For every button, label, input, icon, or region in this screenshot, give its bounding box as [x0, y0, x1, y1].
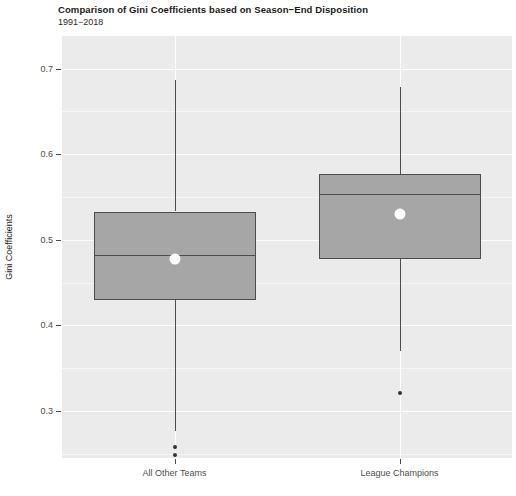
median-line — [319, 194, 481, 195]
mean-marker — [169, 253, 180, 264]
y-axis-tick-label: 0.6 — [40, 149, 53, 159]
whisker-lower — [175, 300, 176, 431]
gridline-minor — [62, 368, 512, 369]
y-axis-tick-mark — [56, 325, 61, 326]
mean-marker — [394, 209, 405, 220]
gridline-major — [62, 69, 512, 70]
plot-panel — [62, 36, 512, 458]
gridline-major — [62, 411, 512, 412]
whisker-upper — [175, 80, 176, 212]
outlier-point — [173, 445, 177, 449]
gridline-major — [62, 325, 512, 326]
x-axis-tick-label: League Champions — [360, 468, 438, 478]
gridline-minor — [62, 111, 512, 112]
boxplot-chart: Comparison of Gini Coefficients based on… — [0, 0, 516, 496]
y-axis-tick-mark — [56, 69, 61, 70]
y-axis-label: Gini Coefficients — [4, 214, 14, 279]
y-axis-tick-label: 0.5 — [40, 235, 53, 245]
gridline-major — [62, 154, 512, 155]
chart-subtitle: 1991−2018 — [58, 17, 103, 27]
outlier-point — [173, 453, 177, 457]
y-axis-label-wrap: Gini Coefficients — [2, 0, 16, 496]
y-axis-tick-mark — [56, 154, 61, 155]
x-axis-tick-mark — [400, 459, 401, 464]
gridline-minor — [62, 454, 512, 455]
y-axis-tick-label: 0.4 — [40, 320, 53, 330]
y-axis-tick-label: 0.3 — [40, 406, 53, 416]
whisker-upper — [400, 87, 401, 174]
x-axis-tick-mark — [175, 459, 176, 464]
y-axis-tick-mark — [56, 240, 61, 241]
whisker-lower — [400, 259, 401, 351]
chart-title: Comparison of Gini Coefficients based on… — [58, 4, 368, 15]
y-axis-tick-mark — [56, 411, 61, 412]
x-axis-tick-label: All Other Teams — [143, 468, 207, 478]
outlier-point — [398, 391, 402, 395]
y-axis-tick-label: 0.7 — [40, 64, 53, 74]
